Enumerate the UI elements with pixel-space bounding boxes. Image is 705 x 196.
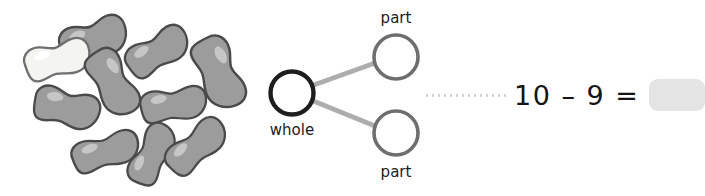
bond-connector-lower	[311, 100, 375, 126]
bean-counters-illustration	[0, 0, 260, 196]
bean-counter-white	[21, 35, 93, 84]
bean-counter	[30, 83, 103, 134]
dotted-leader-icon	[424, 94, 506, 97]
bond-part-circle-lower[interactable]	[374, 111, 418, 155]
answer-input-box[interactable]	[649, 79, 705, 111]
bond-connector-upper	[311, 63, 375, 86]
equation-expression: 10 – 9 =	[514, 80, 639, 111]
bond-whole-circle[interactable]	[271, 72, 314, 115]
bond-part-circle-upper[interactable]	[374, 35, 418, 79]
equation-group: 10 – 9 =	[424, 64, 652, 126]
bean-counter	[160, 112, 233, 181]
bond-whole-label: whole	[270, 121, 314, 139]
bond-part-label-upper: part	[381, 9, 412, 27]
bean-counters-group	[0, 0, 260, 196]
bond-part-label-lower: part	[381, 163, 412, 181]
bean-counter	[120, 20, 194, 82]
bean-counter	[139, 84, 209, 125]
